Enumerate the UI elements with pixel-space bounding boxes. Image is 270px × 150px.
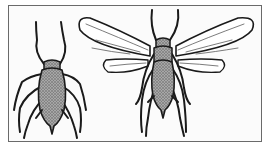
- antenna-left: [36, 22, 44, 64]
- antenna-right: [170, 10, 178, 40]
- abdomen: [38, 68, 65, 134]
- forewing-left: [79, 18, 150, 56]
- abdomen: [152, 60, 175, 118]
- forewing-right: [176, 18, 253, 56]
- wingless-aphid: [14, 22, 86, 138]
- antenna-right: [60, 22, 65, 64]
- winged-aphid: [79, 10, 253, 136]
- aphid-illustration: [0, 0, 270, 150]
- antenna-left: [152, 10, 157, 40]
